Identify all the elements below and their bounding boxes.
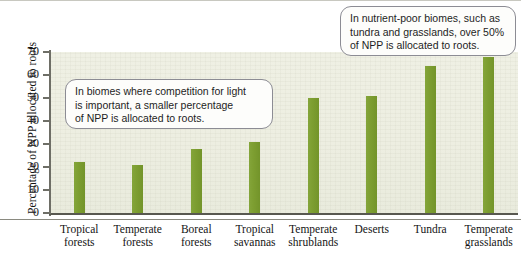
bar: [132, 165, 143, 213]
x-axis-tick-label: Borealforests: [164, 223, 228, 249]
y-axis-tick-mark: [43, 51, 51, 53]
y-axis-tick-label: 40: [0, 114, 39, 126]
y-axis-tick-label: 10: [0, 183, 39, 195]
npp-root-allocation-bar-chart: Percentage of NPP allocated to roots 706…: [0, 0, 521, 264]
x-axis-label-line: Temperate: [457, 223, 521, 236]
x-axis-tick-label: Tropicalforests: [47, 223, 111, 249]
x-axis-tick-label: Temperateforests: [106, 223, 170, 249]
bar: [425, 66, 436, 213]
bar: [483, 57, 494, 213]
bar: [191, 149, 202, 213]
x-axis-tick-label: Tundra: [398, 223, 462, 236]
x-axis-label-line: Tropical: [47, 223, 111, 236]
x-axis-label-line: forests: [47, 236, 111, 249]
bar: [74, 162, 85, 213]
y-axis-tick-mark: [43, 97, 51, 99]
x-axis-label-line: grasslands: [457, 236, 521, 249]
x-axis-label-line: shrublands: [281, 236, 345, 249]
y-axis-tick-mark: [43, 74, 51, 76]
x-axis-tick-label: Temperategrasslands: [457, 223, 521, 249]
annotation-line: of NPP is allocated to roots.: [350, 39, 506, 53]
y-axis-tick-mark: [43, 189, 51, 191]
figure-top-rule: [0, 0, 521, 1]
x-axis-label-line: forests: [164, 236, 228, 249]
y-axis-tick-label: 50: [0, 91, 39, 103]
x-axis-label-line: Tropical: [223, 223, 287, 236]
annotation-line: of NPP is allocated to roots.: [75, 112, 263, 126]
annotation-line: tundra and grasslands, over 50%: [350, 26, 506, 40]
annotation-line: In biomes where competition for light: [75, 85, 263, 99]
x-axis-label-line: Temperate: [106, 223, 170, 236]
bar: [366, 96, 377, 213]
annotation-line: is important, a smaller percentage: [75, 99, 263, 113]
y-axis-tick-label: 30: [0, 137, 39, 149]
x-axis-label-line: Deserts: [340, 223, 404, 236]
y-axis-tick-mark: [43, 212, 51, 214]
x-axis-label-line: forests: [106, 236, 170, 249]
x-axis-tick-label: Temperateshrublands: [281, 223, 345, 249]
annotation-callout-right: In nutrient-poor biomes, such astundra a…: [340, 6, 516, 56]
y-axis-tick-label: 60: [0, 68, 39, 80]
annotation-line: In nutrient-poor biomes, such as: [350, 12, 506, 26]
y-axis-tick-mark: [43, 120, 51, 122]
x-axis-label-line: savannas: [223, 236, 287, 249]
y-axis-tick-label: 70: [0, 45, 39, 57]
x-axis-tick-label: Tropicalsavannas: [223, 223, 287, 249]
y-axis-tick-mark: [43, 143, 51, 145]
y-axis-tick-label: 0: [0, 206, 39, 218]
bar: [249, 142, 260, 213]
figure-bottom-rule: [0, 219, 521, 220]
y-axis-tick-mark: [43, 166, 51, 168]
x-axis-line: [49, 213, 518, 215]
y-axis-tick-label: 20: [0, 160, 39, 172]
bar: [308, 98, 319, 213]
plot-area: [50, 52, 518, 214]
x-axis-label-line: Temperate: [281, 223, 345, 236]
x-axis-label-line: Tundra: [398, 223, 462, 236]
x-axis-label-line: Boreal: [164, 223, 228, 236]
x-axis-tick-label: Deserts: [340, 223, 404, 236]
y-axis-title: Percentage of NPP allocated to roots: [26, 28, 38, 228]
annotation-callout-left: In biomes where competition for lightis …: [65, 79, 273, 129]
